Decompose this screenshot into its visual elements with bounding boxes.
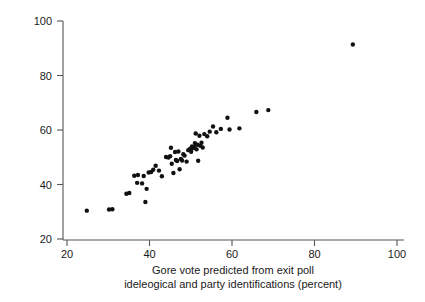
data-point	[351, 42, 355, 46]
data-point	[214, 130, 218, 134]
y-tick-label: 20	[22, 233, 52, 245]
data-point	[205, 134, 209, 138]
x-axis-label: Gore vote predicted from exit poll idele…	[63, 263, 403, 291]
data-point	[160, 174, 164, 178]
data-point	[196, 159, 200, 163]
data-point	[227, 127, 231, 131]
data-point	[127, 191, 131, 195]
data-point	[171, 171, 175, 175]
data-point	[176, 149, 180, 153]
x-tick-label: 20	[52, 248, 82, 260]
data-point	[153, 164, 157, 168]
data-point	[182, 153, 186, 157]
data-point	[136, 173, 140, 177]
data-point	[194, 131, 198, 135]
y-tick-label: 40	[22, 179, 52, 191]
data-point	[135, 181, 139, 185]
data-point	[194, 147, 198, 151]
data-point	[132, 174, 136, 178]
data-point	[151, 168, 155, 172]
axes-group	[57, 21, 404, 246]
y-tick-label: 80	[22, 70, 52, 82]
data-point	[140, 181, 144, 185]
data-point	[219, 127, 223, 131]
data-point	[85, 208, 89, 212]
data-point	[199, 141, 203, 145]
x-tick-label: 60	[217, 248, 247, 260]
data-point	[143, 200, 147, 204]
scatter-plot-figure: Actual Gore vote (percent) 20406080100 2…	[0, 0, 425, 302]
data-point	[208, 129, 212, 133]
data-point	[110, 207, 114, 211]
data-point	[211, 124, 215, 128]
data-point	[157, 168, 161, 172]
data-point	[184, 159, 188, 163]
data-point	[142, 174, 146, 178]
data-point	[189, 150, 193, 154]
data-point	[201, 145, 205, 149]
y-tick-label: 60	[22, 124, 52, 136]
data-point	[169, 146, 173, 150]
y-tick-label: 100	[22, 15, 52, 27]
x-axis-tick-marks	[67, 240, 397, 246]
data-point	[197, 134, 201, 138]
data-point	[237, 126, 241, 130]
data-point	[266, 108, 270, 112]
data-point	[254, 110, 258, 114]
x-tick-label: 40	[135, 248, 165, 260]
data-point	[170, 162, 174, 166]
data-point	[175, 159, 179, 163]
x-tick-label: 100	[382, 248, 412, 260]
data-point	[180, 158, 184, 162]
data-point	[177, 167, 181, 171]
y-axis-tick-marks	[57, 21, 63, 239]
data-point	[144, 187, 148, 191]
x-tick-label: 80	[300, 248, 330, 260]
data-point	[168, 154, 172, 158]
data-points-group	[85, 42, 355, 213]
x-axis-label-line2: ideleogical and party identifications (p…	[63, 277, 403, 291]
data-point	[225, 116, 229, 120]
x-axis-label-line1: Gore vote predicted from exit poll	[63, 263, 403, 277]
